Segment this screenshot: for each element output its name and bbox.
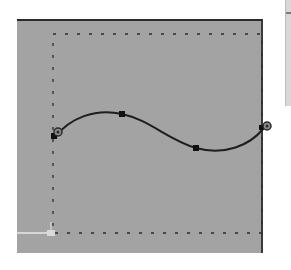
bezier-curve[interactable] [55,112,263,150]
origin-marker [17,222,55,236]
drawing-editor [0,0,291,270]
selection-bounding-box[interactable] [53,34,262,233]
vector-overlay [0,0,291,270]
circle-handle-icon[interactable] [263,122,271,130]
square-node-icon[interactable] [193,145,199,151]
circle-handle-icon[interactable] [54,128,62,136]
square-node-icon[interactable] [119,111,125,117]
